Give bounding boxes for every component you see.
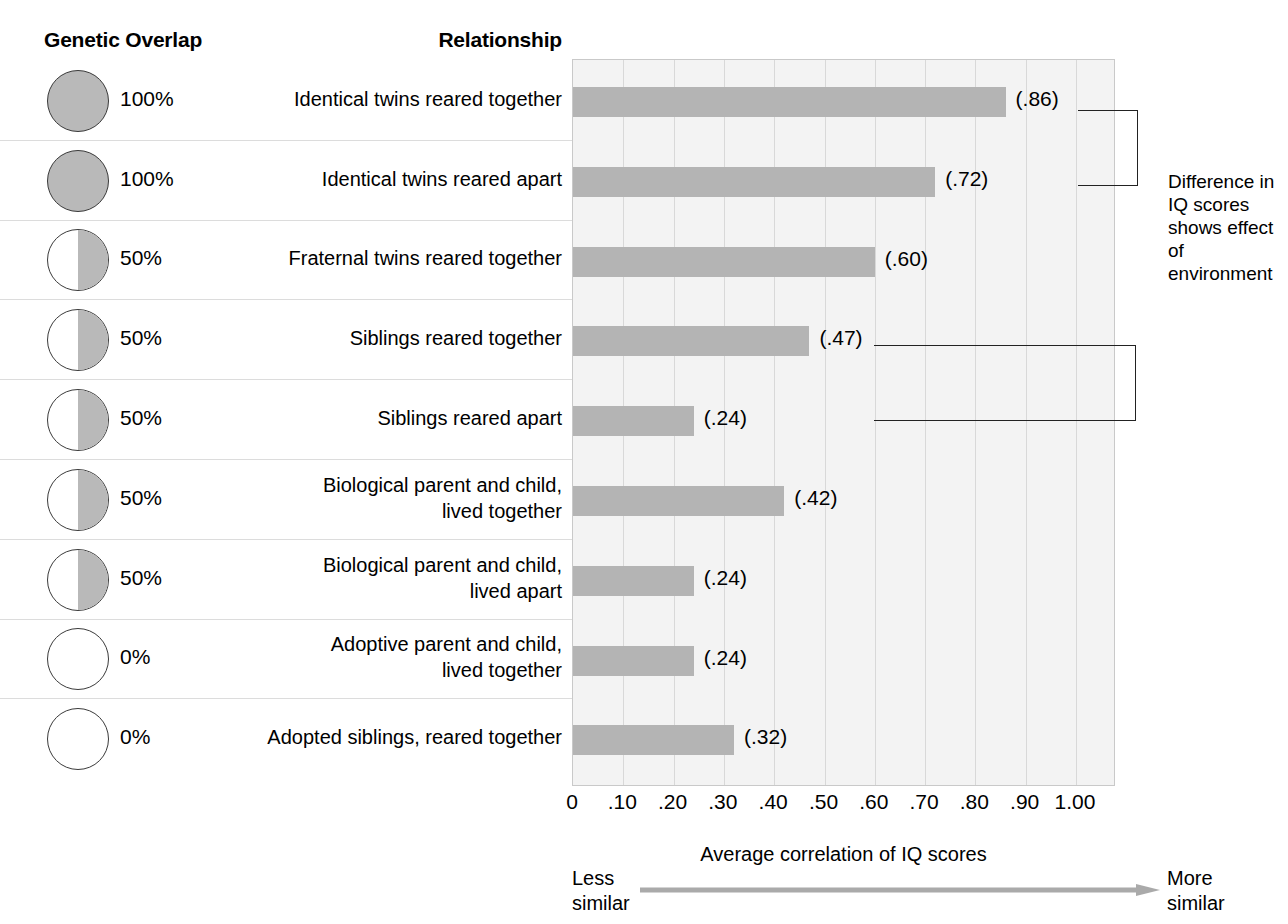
less-similar-label: Less similar <box>572 866 630 916</box>
bar-value-label: (.42) <box>794 486 837 510</box>
relationship-label: Adopted siblings, reared together <box>142 724 562 750</box>
x-axis-ticks: 0.10.20.30.40.50.60.70.80.901.00 <box>572 790 1132 820</box>
x-axis-tick-label: 0 <box>566 790 578 814</box>
x-axis-tick-label: .80 <box>960 790 989 814</box>
table-row: 0%Adoptive parent and child,lived togeth… <box>0 620 572 700</box>
relationship-label: Fraternal twins reared together <box>142 245 562 271</box>
x-axis-tick-label: .60 <box>859 790 888 814</box>
genetic-overlap-pie-icon <box>47 549 109 611</box>
x-axis-tick-label: .50 <box>809 790 838 814</box>
bar <box>573 725 734 755</box>
x-axis-title: Average correlation of IQ scores <box>572 843 1115 866</box>
bar-value-label: (.72) <box>945 167 988 191</box>
table-row: 50%Siblings reared together <box>0 300 572 380</box>
gridline <box>1076 60 1077 785</box>
x-axis-tick-label: .70 <box>909 790 938 814</box>
less-similar-line1: Less <box>572 866 630 891</box>
pie-half-fill <box>78 390 108 450</box>
relationship-label: Siblings reared together <box>142 325 562 351</box>
bar-value-label: (.47) <box>819 326 862 350</box>
bar <box>573 247 875 277</box>
x-axis-tick-label: 1.00 <box>1055 790 1096 814</box>
relationship-label-line1: Adoptive parent and child, <box>142 631 562 657</box>
x-axis-tick-label: .90 <box>1010 790 1039 814</box>
table-row: 50%Fraternal twins reared together <box>0 221 572 301</box>
genetic-overlap-pie-icon <box>47 150 109 212</box>
relationship-label-line2: lived together <box>142 498 562 524</box>
relationship-label-line1: Identical twins reared together <box>142 86 562 112</box>
relationship-label-line2: lived apart <box>142 578 562 604</box>
iq-correlation-chart: Genetic Overlap Relationship 100%Identic… <box>0 0 1288 924</box>
bar <box>573 486 784 516</box>
genetic-overlap-pie-icon <box>47 229 109 291</box>
genetic-overlap-pie-icon <box>47 708 109 770</box>
bar-value-label: (.86) <box>1016 87 1059 111</box>
table-row: 50%Biological parent and child,lived tog… <box>0 460 572 540</box>
relationship-label: Identical twins reared apart <box>142 166 562 192</box>
table-row: 50%Biological parent and child,lived apa… <box>0 540 572 620</box>
relationship-label-line1: Siblings reared together <box>142 325 562 351</box>
pie-half-fill <box>78 550 108 610</box>
pie-half-fill <box>78 310 108 370</box>
relationship-label: Adoptive parent and child,lived together <box>142 631 562 683</box>
table-row: 100%Identical twins reared apart <box>0 141 572 221</box>
pie-half-fill <box>78 470 108 530</box>
bar-value-label: (.60) <box>885 247 928 271</box>
similarity-arrow-icon <box>640 884 1160 896</box>
table-row: 100%Identical twins reared together <box>0 61 572 141</box>
x-axis-tick-label: .10 <box>608 790 637 814</box>
bar-value-label: (.32) <box>744 725 787 749</box>
table-row: 0%Adopted siblings, reared together <box>0 699 572 779</box>
relationship-label-line1: Siblings reared apart <box>142 405 562 431</box>
relationship-label: Biological parent and child,lived apart <box>142 552 562 604</box>
bracket-identical-twins <box>1078 110 1138 186</box>
bar <box>573 87 1006 117</box>
relationship-label-line1: Adopted siblings, reared together <box>142 724 562 750</box>
relationship-header: Relationship <box>0 28 562 52</box>
bar <box>573 406 694 436</box>
genetic-overlap-pie-icon <box>47 628 109 690</box>
x-axis-tick-label: .40 <box>759 790 788 814</box>
bar <box>573 326 809 356</box>
x-axis-tick-label: .20 <box>658 790 687 814</box>
environment-effect-annotation: Difference in IQ scores shows effect of … <box>1168 170 1286 285</box>
bar-chart-plot-area: (.86)(.72)(.60)(.47)(.24)(.42)(.24)(.24)… <box>572 59 1115 786</box>
pie-half-fill <box>78 230 108 290</box>
more-similar-label: More similar <box>1167 866 1225 916</box>
genetic-overlap-pie-icon <box>47 469 109 531</box>
bar <box>573 167 935 197</box>
genetic-overlap-pie-icon <box>47 309 109 371</box>
bar-value-label: (.24) <box>704 406 747 430</box>
x-axis-tick-label: .30 <box>708 790 737 814</box>
relationship-label-line1: Fraternal twins reared together <box>142 245 562 271</box>
genetic-overlap-pie-icon <box>47 70 109 132</box>
relationship-label: Siblings reared apart <box>142 405 562 431</box>
less-similar-line2: similar <box>572 891 630 916</box>
bar-value-label: (.24) <box>704 566 747 590</box>
bar <box>573 566 694 596</box>
relationship-label: Biological parent and child,lived togeth… <box>142 472 562 524</box>
relationship-label-line2: lived together <box>142 657 562 683</box>
relationship-label-line1: Biological parent and child, <box>142 472 562 498</box>
genetic-overlap-pie-icon <box>47 389 109 451</box>
table-row: 50%Siblings reared apart <box>0 380 572 460</box>
bracket-siblings <box>874 345 1136 421</box>
relationship-table: 100%Identical twins reared together100%I… <box>0 61 572 779</box>
bar-value-label: (.24) <box>704 646 747 670</box>
relationship-label-line1: Biological parent and child, <box>142 552 562 578</box>
gridline <box>1026 60 1027 785</box>
relationship-label-line1: Identical twins reared apart <box>142 166 562 192</box>
more-similar-line2: similar <box>1167 891 1225 916</box>
bar <box>573 646 694 676</box>
more-similar-line1: More <box>1167 866 1225 891</box>
relationship-label: Identical twins reared together <box>142 86 562 112</box>
